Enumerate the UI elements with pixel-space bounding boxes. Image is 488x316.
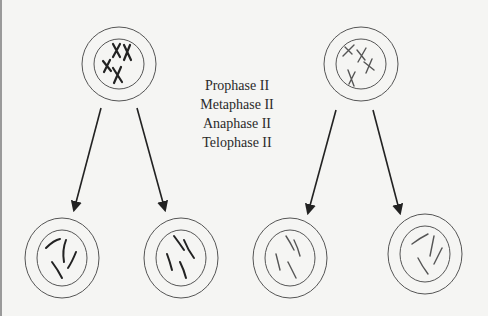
chromosomes-dark (103, 44, 131, 83)
phase-label-telophase: Telophase II (182, 133, 292, 152)
phase-label-prophase: Prophase II (182, 76, 292, 95)
phase-label-metaphase: Metaphase II (182, 95, 292, 114)
phase-labels: Prophase II Metaphase II Anaphase II Tel… (182, 76, 292, 152)
right-parent-cell (324, 27, 398, 101)
phase-label-anaphase: Anaphase II (182, 114, 292, 133)
left-daughter-cell-2 (144, 218, 218, 298)
left-daughter-cell-1 (25, 218, 99, 298)
right-daughter-cell-1 (253, 218, 327, 298)
diagram-page: Prophase II Metaphase II Anaphase II Tel… (0, 0, 488, 316)
meiosis-diagram (2, 0, 488, 316)
right-daughter-cell-2 (388, 214, 462, 294)
left-parent-cell (82, 27, 156, 101)
chromosomes-light (343, 45, 374, 86)
